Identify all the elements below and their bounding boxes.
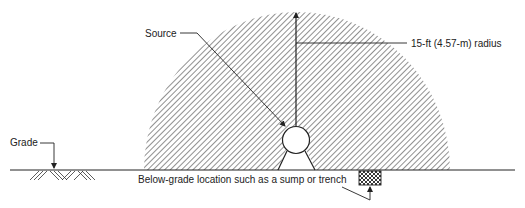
- classification-diagram: 15-ft (4.57-m) radius Source Grade Below…: [0, 0, 525, 208]
- trench-icon: [359, 171, 381, 185]
- source-label: Source: [145, 28, 177, 39]
- radius-label: 15-ft (4.57-m) radius: [411, 38, 502, 49]
- below-grade-leader: [342, 187, 370, 200]
- ground-hatch-icon: [30, 171, 95, 180]
- source-icon: [283, 127, 310, 154]
- grade-leader: [40, 143, 54, 168]
- grade-label: Grade: [10, 137, 38, 148]
- below-grade-label: Below-grade location such as a sump or t…: [138, 174, 346, 185]
